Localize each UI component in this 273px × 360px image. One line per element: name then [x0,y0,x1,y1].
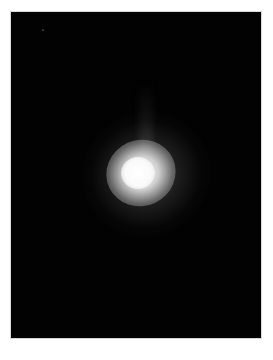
image-frame [11,12,261,338]
bright-core [121,157,155,189]
noise-speck [42,29,44,31]
